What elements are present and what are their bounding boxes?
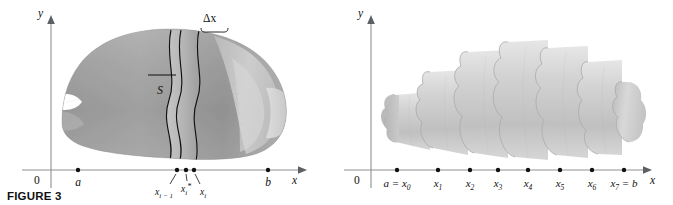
tick-label-xi-star: xi* (180, 182, 191, 197)
left-axis-ticks: a b xi − 1 xi* xi (75, 168, 271, 200)
right-x-axis-label: x (649, 174, 656, 186)
solid-label-s: S (157, 83, 163, 97)
figure-3-svg: y x 0 (0, 0, 673, 205)
delta-x-annotation: Δx (201, 12, 228, 32)
tick-dot-xi-minus-1 (175, 168, 179, 172)
right-y-axis-label: y (357, 7, 364, 20)
tick-dot-x0 (395, 168, 399, 172)
tick-dot-x4 (526, 168, 530, 172)
left-y-axis (47, 15, 55, 188)
figure-3-container: y x 0 (0, 0, 673, 205)
right-y-axis (367, 15, 375, 188)
tick-dot-b (266, 168, 270, 172)
tick-dot-xi-star (184, 168, 188, 172)
tick-dot-xi (192, 168, 196, 172)
figure-caption: FIGURE 3 (7, 190, 62, 202)
right-panel: y x 0 (344, 7, 656, 192)
tick-label-x2: x2 (465, 177, 475, 192)
tick-label-x7: x7 = b (609, 177, 638, 192)
right-axis-ticks: a = x0 x1 x2 x3 x4 x5 x6 x7 = b (383, 168, 638, 192)
left-panel: y x 0 (22, 7, 307, 200)
tick-dot-a (76, 168, 80, 172)
left-x-axis (22, 166, 307, 173)
tick-label-x4: x4 (523, 177, 533, 192)
tick-dot-x2 (468, 168, 472, 172)
left-origin-label: 0 (34, 174, 40, 186)
tick-label-x0: a = x0 (383, 177, 410, 192)
tick-label-x1: x1 (433, 177, 443, 192)
tick-label-b: b (265, 176, 271, 188)
left-y-axis-label: y (37, 7, 44, 20)
step-left-cap (381, 95, 399, 143)
right-origin-label: 0 (354, 174, 360, 186)
tick-dot-x1 (436, 168, 440, 172)
left-x-axis-label: x (291, 174, 298, 186)
tick-dot-x7 (622, 168, 626, 172)
tick-label-x6: x6 (587, 177, 597, 192)
stepped-solid-shape (381, 40, 646, 160)
tick-label-a: a (75, 176, 81, 188)
delta-x-label: Δx (203, 12, 216, 24)
tick-dot-x6 (590, 168, 594, 172)
tick-label-xi-minus-1: xi − 1 (154, 187, 173, 200)
tick-label-x3: x3 (493, 177, 503, 192)
tick-label-xi: xi (199, 187, 206, 200)
solid-s-shape (52, 29, 292, 162)
tick-dot-x5 (558, 168, 562, 172)
tick-dot-x3 (496, 168, 500, 172)
tick-label-x5: x5 (555, 177, 565, 192)
